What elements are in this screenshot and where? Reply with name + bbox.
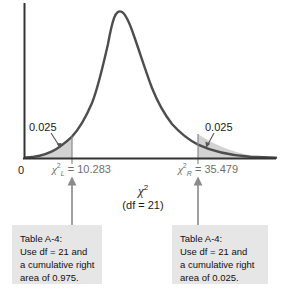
left-callout-line-3: a cumulative right [20,258,95,271]
left-tail-leader-arrow [51,133,62,149]
left-chi-exponent: 2 [57,162,61,169]
right-callout-box: Table A-4: Use df = 21 and a cumulative … [172,225,268,284]
left-chi-subscript: L [61,170,65,177]
right-critical-value-label: χ2R = 35.479 [178,164,238,175]
axis-title-degrees-of-freedom: (df = 21) [0,200,286,211]
chi-square-figure: 0 0.025 0.025 χ2L = 10.283 χ2R = 35.479 … [0,0,286,298]
right-callout-line-1: Table A-4: [180,232,261,245]
left-tail-probability-label: 0.025 [29,122,57,133]
right-callout-line-3: a cumulative right [180,258,261,271]
left-callout-box: Table A-4: Use df = 21 and a cumulative … [12,225,102,284]
right-chi-subscript: R [187,170,192,177]
chi-square-density-curve [26,11,276,157]
left-callout-line-2: Use df = 21 and [20,245,95,258]
axis-title-exponent: 2 [144,183,148,192]
left-callout-line-4: area of 0.975. [20,271,95,284]
left-callout-line-1: Table A-4: [20,232,95,245]
right-tail-probability-label: 0.025 [205,122,233,133]
right-equals-sign: = [195,163,201,175]
right-chi-exponent: 2 [183,162,187,169]
x-axis-origin-label: 0 [18,165,24,176]
left-critical-value-label: χ2L = 10.283 [52,164,111,175]
x-axis-title: χ2 (df = 21) [0,184,286,211]
right-callout-line-2: Use df = 21 and [180,245,261,258]
left-tail-shaded-area [24,137,72,158]
right-critical-value-number: 35.479 [204,163,238,175]
right-callout-line-4: area of 0.025. [180,271,261,284]
left-equals-sign: = [68,163,74,175]
left-critical-value-number: 10.283 [77,163,111,175]
